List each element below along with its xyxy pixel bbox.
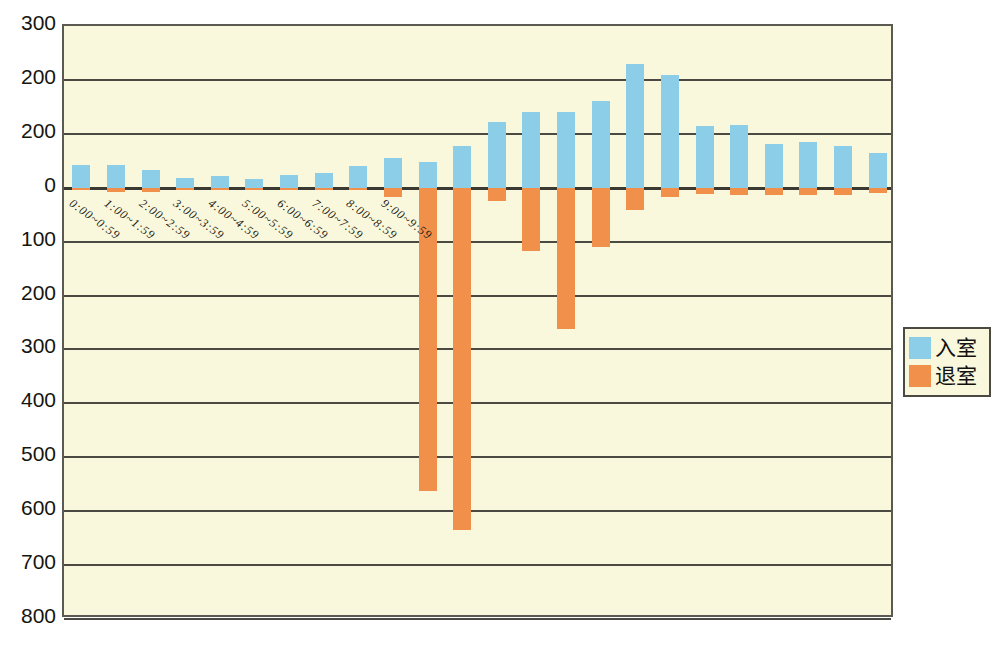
gridline (64, 295, 891, 297)
bar-exit (142, 188, 160, 192)
legend-label-entry: 入室 (935, 337, 977, 359)
bar-entry (869, 153, 887, 188)
gridline (64, 510, 891, 512)
bar-entry (315, 173, 333, 188)
y-axis-tick-label: 800 (0, 604, 56, 628)
gridline (64, 618, 891, 620)
bar-exit (522, 188, 540, 252)
legend-item-exit: 退室 (909, 362, 985, 390)
bar-entry (557, 112, 575, 187)
y-axis-tick-label: 300 (0, 11, 56, 35)
bar-entry (834, 146, 852, 188)
y-axis-tick-label: 700 (0, 550, 56, 574)
bar-exit (626, 188, 644, 211)
bar-exit (557, 188, 575, 329)
bar-exit (245, 188, 263, 190)
y-axis-tick-label: 200 (0, 281, 56, 305)
legend-item-entry: 入室 (909, 334, 985, 362)
plot-area: 0:00~0:591:00~1:592:00~2:593:00~3:594:00… (62, 24, 893, 617)
y-axis-tick-label: 200 (0, 65, 56, 89)
bar-exit (315, 188, 333, 190)
bar-entry (384, 158, 402, 188)
bar-entry (245, 179, 263, 188)
bar-exit (176, 188, 194, 190)
legend-swatch-entry (909, 337, 931, 359)
y-axis-tick-label: 500 (0, 442, 56, 466)
gridline (64, 456, 891, 458)
bar-exit (765, 188, 783, 196)
bar-entry (799, 142, 817, 188)
bar-entry (626, 64, 644, 188)
y-axis-tick-label: 100 (0, 227, 56, 251)
y-axis-tick-label: 300 (0, 334, 56, 358)
bar-exit (280, 188, 298, 190)
bar-entry (765, 144, 783, 188)
bar-exit (730, 188, 748, 196)
bar-entry (522, 112, 540, 187)
bar-entry (211, 176, 229, 188)
gridline (64, 133, 891, 135)
bar-entry (280, 175, 298, 187)
bar-exit (834, 188, 852, 196)
bar-entry (349, 166, 367, 188)
bar-entry (696, 126, 714, 188)
chart-container: 3002002000100200300400500600700800 0:00~… (0, 0, 1001, 645)
legend: 入室 退室 (903, 327, 991, 397)
bar-exit (696, 188, 714, 194)
bar-entry (453, 146, 471, 188)
bar-exit (488, 188, 506, 201)
bar-entry (72, 165, 90, 188)
bar-exit (869, 188, 887, 193)
bar-entry (730, 125, 748, 188)
bar-exit (453, 188, 471, 530)
y-axis-tick-label: 0 (0, 173, 56, 197)
bar-entry (592, 101, 610, 187)
bar-exit (349, 188, 367, 190)
bar-exit (661, 188, 679, 198)
y-axis-tick-label: 200 (0, 119, 56, 143)
bar-entry (488, 122, 506, 188)
bar-entry (142, 170, 160, 188)
bar-entry (176, 178, 194, 188)
y-axis-tick-label: 400 (0, 388, 56, 412)
bar-entry (419, 162, 437, 188)
gridline (64, 564, 891, 566)
legend-label-exit: 退室 (935, 365, 977, 387)
gridline (64, 241, 891, 243)
bar-exit (211, 188, 229, 190)
legend-swatch-exit (909, 365, 931, 387)
bar-entry (661, 75, 679, 188)
gridline (64, 348, 891, 350)
bar-exit (592, 188, 610, 247)
gridline (64, 79, 891, 81)
bar-exit (107, 188, 125, 192)
bar-entry (107, 165, 125, 188)
gridline (64, 402, 891, 404)
bar-exit (799, 188, 817, 196)
y-axis-tick-label: 600 (0, 496, 56, 520)
bar-exit (72, 188, 90, 191)
